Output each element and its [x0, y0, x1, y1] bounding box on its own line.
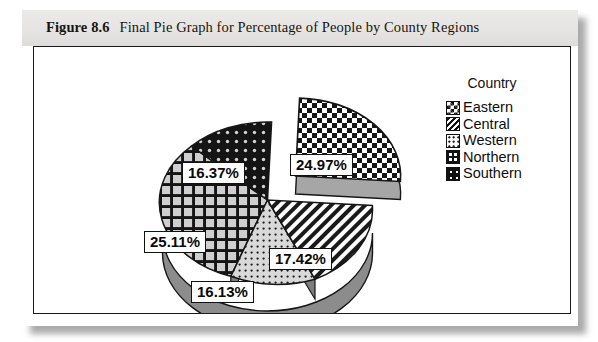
legend-item-southern: Southern — [438, 166, 566, 181]
legend-swatch-southern-icon — [446, 167, 460, 181]
figure-plate: Figure 8.6Final Pie Graph for Percentage… — [22, 10, 578, 326]
legend-label-western: Western — [463, 133, 517, 148]
figure-title: Final Pie Graph for Percentage of People… — [120, 19, 480, 35]
legend-item-northern: Northern — [438, 150, 566, 165]
legend-item-eastern: Eastern — [438, 100, 566, 115]
pie-slice-eastern-group — [296, 98, 401, 199]
chart-area: 24.97% 17.42% 16.13% 25.11% 16.37% Count… — [33, 46, 571, 314]
figure-container: Figure 8.6Final Pie Graph for Percentage… — [0, 0, 598, 342]
legend-label-northern: Northern — [463, 150, 519, 165]
pie-label-northern: 25.11% — [144, 231, 206, 253]
legend-label-central: Central — [463, 117, 510, 132]
legend-swatch-western-icon — [446, 134, 460, 148]
legend-swatch-northern-icon — [446, 150, 460, 164]
legend-swatch-eastern-icon — [446, 101, 460, 115]
chart-legend: Country Eastern Central Western Northern — [438, 75, 566, 183]
legend-item-central: Central — [438, 117, 566, 132]
pie-label-southern: 16.37% — [182, 162, 245, 184]
legend-swatch-central-icon — [446, 117, 460, 131]
legend-label-eastern: Eastern — [463, 100, 513, 115]
legend-label-southern: Southern — [463, 166, 522, 181]
pie-label-eastern: 24.97% — [290, 154, 353, 176]
figure-caption: Figure 8.6Final Pie Graph for Percentage… — [46, 19, 479, 36]
pie-label-western: 16.13% — [191, 281, 254, 303]
legend-title: Country — [438, 75, 566, 91]
pie-label-central: 17.42% — [269, 248, 332, 270]
figure-number: Figure 8.6 — [46, 19, 110, 35]
legend-item-western: Western — [438, 133, 566, 148]
figure-caption-band: Figure 8.6Final Pie Graph for Percentage… — [22, 10, 578, 46]
